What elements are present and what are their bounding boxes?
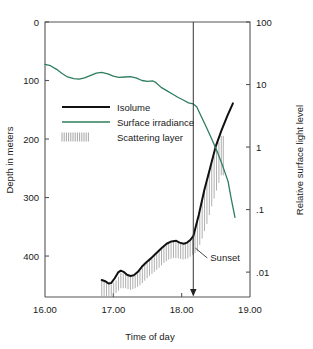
y2-tick-label: 10 — [256, 79, 267, 90]
legend-swatch-scattering — [62, 133, 88, 142]
y-tick-label: 0 — [34, 17, 39, 28]
y2-axis-title: Relative surface light level — [294, 105, 305, 215]
x-tick-label: 18.00 — [170, 304, 194, 315]
legend-label: Scattering layer — [117, 132, 183, 143]
y-axis-title: Depth in meters — [4, 126, 15, 193]
x-tick-label: 16.00 — [33, 304, 57, 315]
y-tick-label: 200 — [23, 134, 39, 145]
y-tick-label: 300 — [23, 192, 39, 203]
x-axis-title: Time of day — [125, 331, 175, 342]
y2-tick-label: .1 — [256, 204, 264, 215]
y2-tick-label: .01 — [256, 267, 269, 278]
depth-light-chart: 0100200300400 100101.1.01 16.0017.0018.0… — [0, 0, 313, 349]
y2-tick-label: 1 — [256, 142, 261, 153]
y-tick-label: 400 — [23, 251, 39, 262]
sunset-label: Sunset — [210, 252, 240, 263]
x-tick-label: 17.00 — [101, 304, 125, 315]
y-tick-label: 100 — [23, 75, 39, 86]
x-tick-label: 19.00 — [238, 304, 262, 315]
legend-label: Surface irradiance — [117, 117, 194, 128]
chart-figure: 0100200300400 100101.1.01 16.0017.0018.0… — [0, 0, 313, 349]
y2-tick-label: 100 — [256, 17, 272, 28]
legend-label: Isolume — [117, 102, 150, 113]
